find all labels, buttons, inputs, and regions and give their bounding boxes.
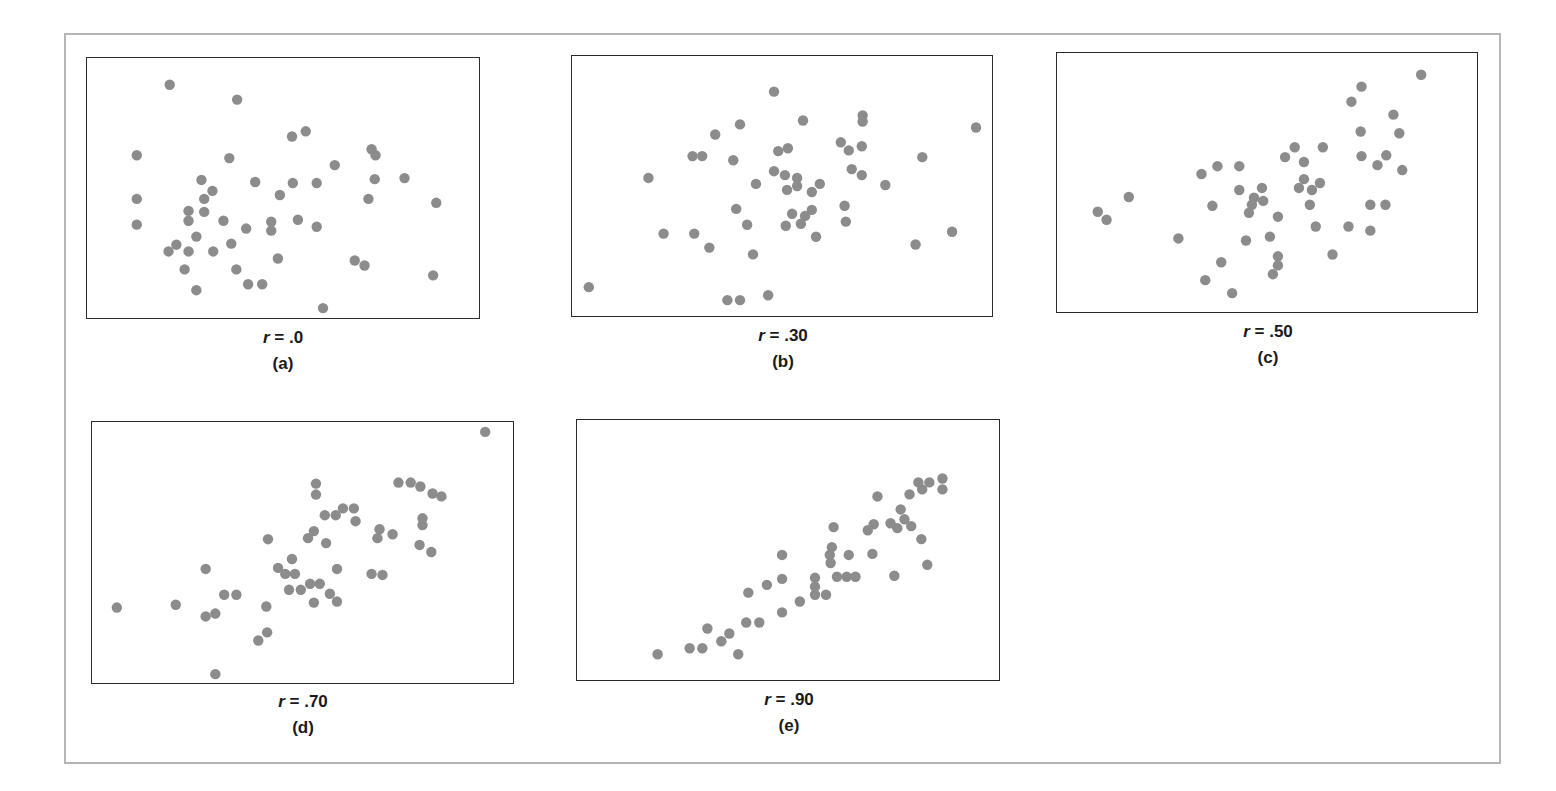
data-point	[261, 601, 271, 611]
data-point	[426, 547, 436, 557]
data-point	[763, 290, 773, 300]
data-point	[232, 94, 242, 104]
data-point	[305, 579, 315, 589]
data-point	[257, 279, 267, 289]
data-point	[1200, 275, 1210, 285]
correlation-label-e: r = .90	[739, 690, 839, 710]
data-point	[841, 572, 851, 582]
data-point	[904, 489, 914, 499]
data-point	[266, 225, 276, 235]
data-point	[374, 524, 384, 534]
data-point	[338, 503, 348, 513]
data-point	[318, 303, 328, 313]
correlation-label-a: r = .0	[233, 328, 333, 348]
data-point	[742, 220, 752, 230]
data-point	[288, 178, 298, 188]
data-point	[1356, 81, 1366, 91]
data-point	[807, 187, 817, 197]
data-point	[263, 534, 273, 544]
data-point	[290, 569, 300, 579]
data-point	[769, 166, 779, 176]
scatter-plot-c	[1056, 52, 1478, 313]
data-point	[431, 198, 441, 208]
data-point	[841, 216, 851, 226]
data-point	[971, 122, 981, 132]
data-point	[710, 129, 720, 139]
data-point	[1241, 235, 1251, 245]
data-point	[1124, 192, 1134, 202]
data-point	[112, 602, 122, 612]
data-point	[287, 554, 297, 564]
data-point	[1258, 196, 1268, 206]
data-point	[231, 264, 241, 274]
data-point	[1244, 208, 1254, 218]
data-point	[1397, 165, 1407, 175]
data-point	[811, 232, 821, 242]
caption-a: r = .0 (a)	[233, 328, 333, 374]
data-point	[1196, 169, 1206, 179]
data-point	[916, 534, 926, 544]
data-point	[751, 179, 761, 189]
data-point	[359, 260, 369, 270]
data-point	[937, 484, 947, 494]
data-point	[199, 194, 209, 204]
data-point	[796, 219, 806, 229]
data-point	[350, 516, 360, 526]
data-point	[1318, 142, 1328, 152]
data-point	[399, 173, 409, 183]
data-point	[132, 194, 142, 204]
data-point	[200, 564, 210, 574]
data-point	[312, 222, 322, 232]
panel-letter-d: (d)	[253, 718, 353, 738]
data-point	[428, 270, 438, 280]
caption-b: r = .30 (b)	[733, 326, 833, 372]
data-point	[377, 570, 387, 580]
data-point	[792, 181, 802, 191]
data-point	[387, 529, 397, 539]
data-point	[937, 473, 947, 483]
data-point	[722, 295, 732, 305]
data-point	[163, 246, 173, 256]
data-point	[867, 549, 877, 559]
data-point	[652, 649, 662, 659]
data-point	[199, 207, 209, 217]
data-point	[210, 608, 220, 618]
data-point	[781, 221, 791, 231]
data-point	[224, 153, 234, 163]
data-point	[320, 510, 330, 520]
data-point	[1173, 233, 1183, 243]
data-point	[1265, 231, 1275, 241]
data-point	[762, 580, 772, 590]
data-point	[1268, 269, 1278, 279]
data-point	[1212, 161, 1222, 171]
data-point	[293, 215, 303, 225]
data-point	[315, 579, 325, 589]
data-point	[296, 585, 306, 595]
data-point	[393, 477, 403, 487]
data-point	[480, 427, 490, 437]
data-point	[1290, 142, 1300, 152]
data-point	[702, 623, 712, 633]
data-point	[917, 152, 927, 162]
data-point	[280, 569, 290, 579]
data-point	[1234, 161, 1244, 171]
data-point	[1273, 211, 1283, 221]
data-point	[1216, 257, 1226, 267]
caption-d: r = .70 (d)	[253, 692, 353, 738]
data-point	[132, 219, 142, 229]
data-point	[1294, 183, 1304, 193]
data-point	[741, 617, 751, 627]
data-point	[684, 643, 694, 653]
data-point	[312, 178, 322, 188]
data-point	[183, 246, 193, 256]
data-point	[1093, 207, 1103, 217]
data-point	[1416, 70, 1426, 80]
data-point	[1372, 160, 1382, 170]
data-point	[832, 572, 842, 582]
data-point	[370, 174, 380, 184]
data-point	[658, 228, 668, 238]
data-point	[1299, 174, 1309, 184]
data-point	[415, 481, 425, 491]
data-point	[735, 119, 745, 129]
data-point	[783, 143, 793, 153]
